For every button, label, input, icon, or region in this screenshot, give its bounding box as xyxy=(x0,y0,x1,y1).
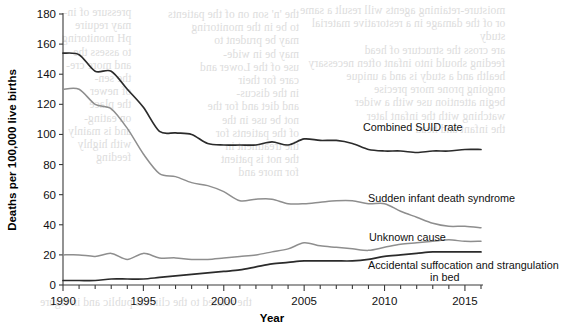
y-tick-label: 100 xyxy=(37,128,56,140)
y-tick-label: 160 xyxy=(37,38,56,50)
series-label-accidental-suffocation: Accidental suffocation and strangulation xyxy=(368,259,559,271)
x-tick-label: 2010 xyxy=(372,295,398,307)
x-tick-label: 2015 xyxy=(452,295,478,307)
y-axis-title: Deaths per 100,000 live births xyxy=(6,69,18,231)
x-axis-title: Year xyxy=(260,312,285,324)
x-tick-label: 2000 xyxy=(211,295,237,307)
series-label-combined-suid: Combined SUID rate xyxy=(363,121,463,133)
y-tick-label: 140 xyxy=(37,68,56,80)
scanned-figure: pressure of in- may require pH monitorin… xyxy=(0,0,562,331)
series-label-accidental-suffocation-line2: in bed xyxy=(430,271,459,283)
y-tick-label: 40 xyxy=(43,219,56,231)
series-label-sids: Sudden infant death syndrome xyxy=(368,192,515,204)
y-tick-label: 120 xyxy=(37,98,56,110)
y-tick-label: 80 xyxy=(43,159,56,171)
y-tick-label: 20 xyxy=(43,249,56,261)
y-tick-label: 0 xyxy=(50,279,56,291)
x-tick-label: 1995 xyxy=(131,295,157,307)
series-line-0 xyxy=(63,53,481,153)
y-axis-ticks: 020406080100120140160180 xyxy=(37,8,63,291)
data-series-group xyxy=(63,53,481,281)
series-line-1 xyxy=(63,88,481,228)
x-axis-ticks: 199019952000200520102015 xyxy=(50,285,481,307)
y-tick-label: 180 xyxy=(37,8,56,20)
x-tick-label: 2005 xyxy=(291,295,317,307)
line-chart: 020406080100120140160180 199019952000200… xyxy=(0,0,562,331)
series-label-unknown-cause: Unknown cause xyxy=(369,231,446,243)
x-tick-label: 1990 xyxy=(50,295,76,307)
y-tick-label: 60 xyxy=(43,189,56,201)
